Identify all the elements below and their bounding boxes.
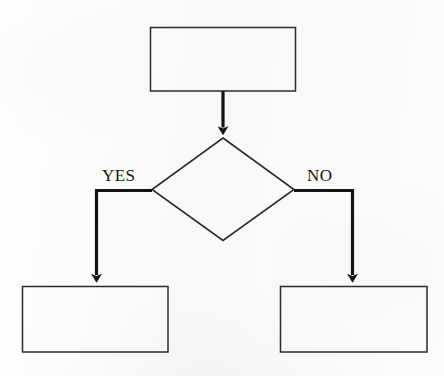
edge-label-yes: YES	[102, 167, 135, 184]
node-outcome-no	[281, 287, 428, 353]
node-process-top	[151, 28, 296, 92]
node-decision-diamond	[152, 138, 294, 241]
edge-label-no: NO	[307, 167, 332, 184]
edge-decision-no	[294, 191, 353, 276]
flowchart-diagram	[0, 0, 444, 376]
node-outcome-yes	[23, 287, 169, 353]
flowchart-canvas: YES NO	[0, 0, 444, 376]
edge-decision-yes	[97, 191, 153, 276]
